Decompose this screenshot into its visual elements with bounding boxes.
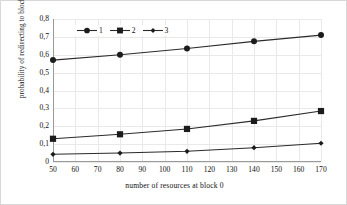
chart-legend: 123: [75, 25, 170, 36]
series-1: [50, 32, 324, 63]
x-tick-label: 130: [226, 166, 237, 174]
y-tick-label: 0,7: [40, 33, 50, 41]
x-tick-label: 160: [293, 166, 304, 174]
x-tick-label: 90: [139, 166, 147, 174]
x-tick-label: 140: [248, 166, 259, 174]
y-axis-title: probability of redirecting to block 0: [18, 0, 26, 110]
legend-label: 2: [132, 27, 136, 35]
y-tick-label: 0,6: [40, 51, 50, 59]
legend-marker-square-icon: [110, 26, 130, 35]
x-tick-label: 110: [181, 166, 192, 174]
y-tick-label: 0,2: [40, 122, 50, 130]
y-tick-label: 0,1: [40, 140, 50, 148]
x-tick-label: 60: [72, 166, 80, 174]
y-tick-label: 0,5: [40, 69, 50, 77]
x-tick-label: 170: [315, 166, 326, 174]
legend-label: 1: [99, 27, 103, 35]
legend-marker-diamond-icon: [143, 26, 163, 35]
plot-area: 00,10,20,30,40,50,60,70,8 50607080901001…: [53, 19, 321, 162]
data-point-marker: [251, 145, 256, 150]
legend-item-1[interactable]: 1: [77, 26, 103, 35]
x-tick-label: 70: [94, 166, 102, 174]
y-tick-label: 0,4: [40, 87, 50, 95]
series-line: [53, 111, 321, 139]
data-point-marker: [318, 108, 324, 114]
data-point-marker: [117, 150, 122, 155]
data-point-marker: [50, 57, 56, 63]
legend-item-2[interactable]: 2: [110, 26, 136, 35]
data-point-marker: [50, 136, 56, 142]
chart-figure: probability of redirecting to block 0 00…: [0, 0, 347, 205]
series-3: [50, 141, 323, 157]
legend-label: 3: [165, 27, 169, 35]
series-layer: [53, 19, 321, 162]
x-axis-title: number of resources at block 0: [1, 181, 347, 190]
x-tick-label: 100: [159, 166, 170, 174]
x-tick-label: 150: [271, 166, 282, 174]
x-tick-label: 120: [204, 166, 215, 174]
data-point-marker: [150, 28, 155, 33]
data-point-marker: [117, 52, 123, 58]
data-point-marker: [50, 152, 55, 157]
data-point-marker: [117, 28, 123, 34]
data-point-marker: [251, 118, 257, 124]
gridline-horizontal: [53, 162, 321, 163]
data-point-marker: [251, 38, 257, 44]
data-point-marker: [184, 126, 190, 132]
data-point-marker: [318, 32, 324, 38]
data-point-marker: [184, 45, 190, 51]
x-tick-label: 80: [116, 166, 124, 174]
data-point-marker: [84, 28, 90, 34]
y-tick-label: 0,3: [40, 105, 50, 113]
data-point-marker: [117, 131, 123, 137]
legend-marker-circle-icon: [77, 26, 97, 35]
data-point-marker: [318, 141, 323, 146]
data-point-marker: [184, 149, 189, 154]
series-2: [50, 108, 324, 142]
x-tick-label: 50: [49, 166, 57, 174]
legend-item-3[interactable]: 3: [143, 26, 169, 35]
gridline-vertical: [321, 19, 322, 162]
y-tick-label: 0,8: [40, 15, 50, 23]
